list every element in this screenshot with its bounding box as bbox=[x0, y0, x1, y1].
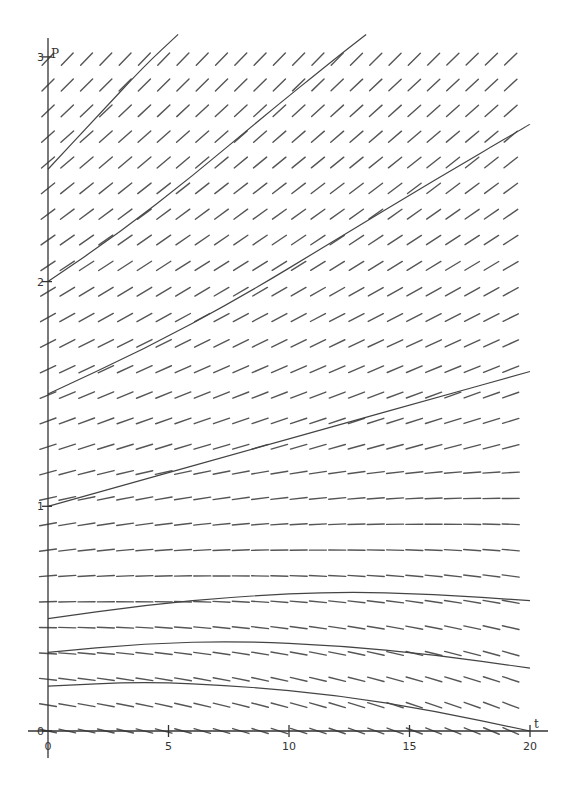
slope-segment bbox=[61, 105, 73, 117]
slope-segment bbox=[119, 105, 131, 117]
slope-segment bbox=[252, 678, 269, 682]
slope-segment bbox=[368, 677, 384, 681]
slope-segment bbox=[484, 366, 500, 372]
slope-segment bbox=[483, 600, 500, 603]
slope-segment bbox=[290, 471, 307, 474]
slope-segment bbox=[117, 366, 132, 373]
slope-segment bbox=[272, 366, 288, 373]
slope-segment bbox=[174, 627, 191, 628]
slope-segment bbox=[425, 575, 442, 577]
slope-segment bbox=[444, 550, 461, 551]
slope-segment bbox=[271, 418, 287, 423]
slope-segment bbox=[388, 183, 402, 193]
slope-segment bbox=[502, 472, 519, 473]
slope-segment bbox=[272, 340, 287, 347]
slope-segment bbox=[290, 601, 307, 602]
slope-segment bbox=[214, 314, 229, 322]
slope-segment bbox=[444, 575, 461, 577]
slope-segment bbox=[100, 53, 112, 65]
slope-segment bbox=[235, 105, 248, 117]
slope-segment bbox=[117, 678, 134, 681]
slope-segment bbox=[310, 340, 325, 347]
slope-segment bbox=[369, 261, 383, 270]
slope-segment bbox=[155, 652, 172, 654]
slope-segment bbox=[175, 392, 191, 398]
slope-segment bbox=[195, 235, 209, 245]
slope-segment bbox=[157, 209, 171, 219]
slope-segment bbox=[350, 53, 362, 65]
axes bbox=[28, 38, 548, 758]
slope-segment bbox=[272, 314, 287, 322]
slope-segment bbox=[407, 340, 422, 347]
slope-segment bbox=[311, 287, 326, 295]
slope-segment bbox=[81, 79, 93, 91]
slope-segment bbox=[503, 366, 519, 372]
slope-segment bbox=[272, 261, 286, 270]
slope-segment bbox=[464, 445, 480, 449]
slope-segment bbox=[175, 471, 192, 474]
slope-segment bbox=[388, 157, 401, 168]
slope-segment bbox=[215, 131, 228, 142]
slope-segment bbox=[406, 550, 423, 551]
slope-segment bbox=[156, 444, 172, 449]
slope-segment bbox=[215, 209, 229, 219]
slope-segment bbox=[406, 445, 422, 449]
slope-segment bbox=[388, 288, 403, 296]
slope-segment bbox=[232, 627, 249, 629]
slope-segment bbox=[348, 652, 365, 655]
slope-segment bbox=[407, 288, 422, 296]
slope-segment bbox=[485, 105, 498, 116]
slope-segment bbox=[271, 601, 288, 602]
slope-segment bbox=[503, 392, 519, 398]
slope-segment bbox=[59, 418, 75, 424]
slope-segment bbox=[484, 288, 499, 296]
slope-segment bbox=[331, 131, 344, 142]
slope-segment bbox=[136, 703, 153, 706]
slope-segment bbox=[97, 704, 114, 707]
slope-segment bbox=[310, 444, 326, 449]
slope-segment bbox=[368, 703, 384, 708]
slope-segment bbox=[59, 575, 76, 576]
slope-segment bbox=[214, 287, 229, 296]
slope-segment bbox=[406, 418, 422, 423]
slope-segment bbox=[484, 209, 498, 219]
slope-segment bbox=[369, 105, 382, 116]
slope-segment bbox=[331, 105, 344, 116]
slope-segment bbox=[59, 678, 76, 680]
slope-segment bbox=[78, 523, 95, 526]
slope-segment bbox=[232, 652, 249, 655]
slope-segment bbox=[350, 183, 364, 193]
slope-segment bbox=[234, 209, 248, 219]
y-tick-label: 3 bbox=[37, 51, 44, 64]
slope-segment bbox=[504, 209, 518, 219]
slope-segment bbox=[368, 444, 384, 449]
slope-segment bbox=[485, 183, 499, 193]
slope-segment bbox=[97, 549, 114, 551]
slope-segment bbox=[176, 183, 189, 193]
slope-segment bbox=[175, 313, 190, 321]
slope-segment bbox=[176, 209, 190, 219]
slope-segment bbox=[367, 626, 384, 629]
slope-segment bbox=[118, 261, 132, 270]
slope-segment bbox=[80, 157, 93, 168]
slope-segment bbox=[253, 235, 267, 245]
slope-segment bbox=[348, 677, 364, 681]
y-tick-label: 1 bbox=[37, 500, 44, 513]
slope-segment bbox=[252, 392, 268, 398]
slope-segment bbox=[117, 523, 134, 525]
slope-segment bbox=[252, 524, 269, 525]
slope-segment bbox=[79, 287, 94, 296]
slope-segment bbox=[235, 79, 247, 91]
slope-segment bbox=[310, 471, 327, 473]
slope-segment bbox=[387, 472, 404, 474]
slope-segment bbox=[464, 626, 481, 630]
slope-segment bbox=[464, 575, 481, 577]
slope-segment bbox=[368, 392, 384, 398]
slope-segment bbox=[329, 601, 346, 603]
slope-segment bbox=[445, 677, 461, 682]
slope-segment bbox=[80, 183, 93, 194]
slope-segment bbox=[252, 601, 269, 602]
slope-segment bbox=[427, 105, 440, 116]
slope-segment bbox=[194, 523, 211, 525]
slope-segment bbox=[157, 183, 170, 194]
